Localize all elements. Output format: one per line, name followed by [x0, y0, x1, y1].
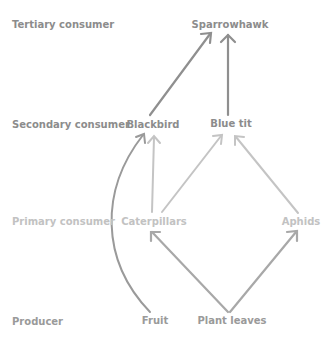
arrow-caterpillars-to-blue-tit	[162, 135, 222, 212]
node-sparrowhawk: Sparrowhawk	[192, 19, 269, 31]
arrow-blackbird-to-sparrowhawk	[150, 33, 211, 115]
node-blackbird: Blackbird	[126, 119, 179, 131]
level-label-secondary: Secondary consumer	[12, 119, 130, 131]
arrow-plant-leaves-to-caterpillars	[151, 232, 228, 312]
arrow-aphids-to-blue-tit	[235, 136, 298, 213]
node-aphids: Aphids	[282, 216, 321, 228]
node-caterpillars: Caterpillars	[121, 216, 187, 228]
level-label-producer: Producer	[12, 316, 63, 328]
arrow-blue-tit-to-sparrowhawk	[221, 35, 235, 115]
arrow-caterpillars-to-blackbird	[148, 136, 160, 212]
level-label-primary: Primary consumer	[12, 216, 115, 228]
node-fruit: Fruit	[142, 315, 168, 327]
node-blue-tit: Blue tit	[210, 118, 251, 130]
level-label-tertiary: Tertiary consumer	[12, 19, 114, 31]
arrow-plant-leaves-to-aphids	[230, 231, 297, 312]
food-web-arrows	[0, 0, 328, 338]
node-plant-leaves: Plant leaves	[197, 315, 266, 327]
